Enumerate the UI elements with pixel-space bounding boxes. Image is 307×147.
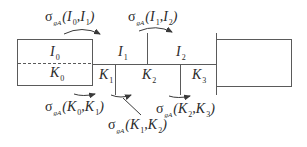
label-K0: K0 <box>50 66 64 83</box>
label-K2: K2 <box>142 68 156 85</box>
label-K3: K3 <box>192 68 206 85</box>
diagram-canvas: I0 K0 I1 I2 K1 K2 K3 σgA(I0,I1) σgA(I1,I… <box>0 0 307 147</box>
arrow-K0-K1 <box>74 94 95 96</box>
right-block <box>217 40 292 87</box>
label-K1: K1 <box>99 68 113 85</box>
arrow-I0-I1 <box>64 30 100 35</box>
transition-label-I1-I2: σgA(I1,I2) <box>128 8 178 27</box>
leader-K1-K2 <box>123 98 141 115</box>
arrow-K1-K2 <box>111 95 131 97</box>
label-I0: I0 <box>50 45 60 62</box>
transition-label-K2-K3: σgA(K2,K3) <box>156 100 215 119</box>
transition-label-K0-K1: σgA(K0,K1) <box>45 98 104 117</box>
transition-label-I0-I1: σgA(I0,I1) <box>45 8 95 27</box>
arrow-K2-K3 <box>169 96 190 98</box>
label-I2: I2 <box>176 45 186 62</box>
label-I1: I1 <box>118 45 128 62</box>
arrow-I1-I2 <box>139 28 172 32</box>
